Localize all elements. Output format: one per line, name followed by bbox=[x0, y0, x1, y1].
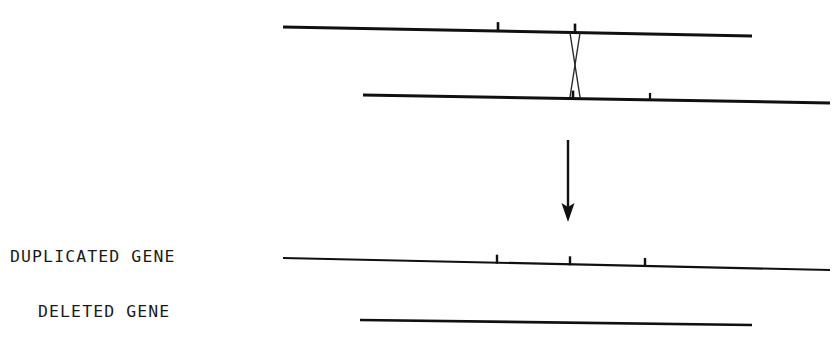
figure-canvas: DUPLICATED GENE DELETED GENE bbox=[0, 0, 839, 353]
upper-parent-chromosome bbox=[283, 22, 752, 36]
lower-parent-chromosome bbox=[363, 91, 830, 103]
crossover-x-mark bbox=[570, 33, 580, 97]
lower-parent-chromosome-line bbox=[363, 95, 830, 103]
upper-parent-chromosome-line bbox=[283, 27, 752, 36]
duplicated-gene-chromosome-line bbox=[283, 258, 830, 270]
duplicated-gene-chromosome bbox=[283, 255, 830, 270]
deleted-gene-chromosome bbox=[360, 320, 752, 325]
duplicated-gene-label: DUPLICATED GENE bbox=[10, 249, 176, 266]
chromosome-diagram bbox=[0, 0, 839, 353]
deleted-gene-chromosome-line bbox=[360, 320, 752, 325]
deleted-gene-label: DELETED GENE bbox=[38, 304, 170, 321]
downward-arrow bbox=[562, 140, 575, 222]
